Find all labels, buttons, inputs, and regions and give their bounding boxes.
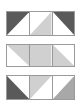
pattern-cell-2-3 [52,44,75,67]
pattern-cell-2-2 [29,44,52,67]
pattern-cell-2-1 [6,44,30,67]
bottom-right-triangle-shape [53,76,74,99]
pattern-cell-1-1 [6,11,30,36]
bottom-right-triangle-shape [30,12,51,35]
pattern-cell-3-2 [29,75,52,100]
full-square-shape [30,45,51,66]
top-left-triangle-shape [7,12,29,35]
pattern-cell-1-2 [29,11,52,36]
top-right-triangle-shape [7,45,29,66]
pattern-cell-3-1 [6,75,30,100]
pattern-cell-3-3 [52,75,75,100]
top-left-triangle-shape [30,76,51,99]
bottom-left-triangle-shape [7,76,29,99]
pattern-cell-1-3 [52,11,75,36]
pattern-row-2 [6,44,75,67]
pattern-row-1 [6,11,75,36]
bottom-left-triangle-shape [53,45,74,66]
top-right-triangle-shape [53,12,74,35]
pattern-row-3 [6,75,75,100]
